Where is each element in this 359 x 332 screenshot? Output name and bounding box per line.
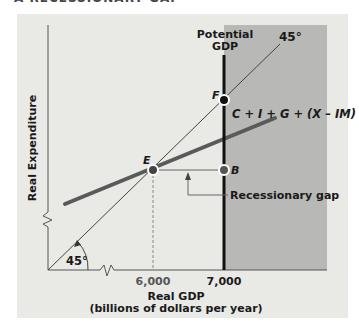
potential-label-2: GDP — [212, 40, 238, 53]
chart-svg: Potential GDP 45° F C + I + G + (X – IM)… — [0, 0, 359, 332]
arrow-up-icon — [185, 172, 191, 180]
shaded-region — [224, 25, 327, 270]
point-f-label: F — [212, 89, 220, 102]
tick-7000: 7,000 — [207, 275, 242, 288]
gap-pointer — [188, 178, 228, 195]
point-b — [219, 165, 229, 175]
x-axis-subtitle: (billions of dollars per year) — [89, 302, 262, 315]
angle-origin-label: 45° — [66, 254, 88, 268]
point-f — [219, 95, 229, 105]
ae-line-label: C + I + G + (X – IM) — [232, 107, 356, 121]
angle-top-label: 45° — [279, 30, 302, 44]
y-axis-title: Real Expenditure — [26, 95, 39, 201]
point-e-label: E — [143, 154, 151, 167]
y-axis — [43, 25, 52, 270]
point-b-label: B — [231, 164, 239, 177]
gap-label: Recessionary gap — [230, 189, 339, 202]
tick-6000: 6,000 — [136, 275, 171, 288]
